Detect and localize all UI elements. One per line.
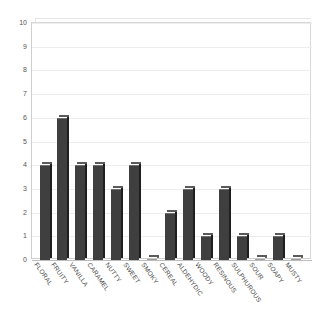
bar-side-face: [139, 163, 141, 258]
bar-body: [147, 258, 157, 260]
bar-top-face: [185, 186, 195, 188]
bar-top-face: [275, 233, 285, 235]
plot-area: [31, 22, 311, 259]
y-tick-label-1: 1: [23, 232, 27, 239]
bar-top-face: [257, 255, 267, 257]
y-tick-label-4: 4: [23, 161, 27, 168]
y-tick-label-9: 9: [23, 42, 27, 49]
bar-side-face: [50, 163, 52, 258]
bar-side-face: [121, 187, 123, 258]
x-tick-label-soapy: SOAPY: [266, 261, 285, 284]
y-tick-label-0: 0: [23, 256, 27, 263]
y-tick-label-10: 10: [19, 19, 27, 26]
bar-top-face: [221, 186, 231, 188]
y-tick-label-8: 8: [23, 66, 27, 73]
x-axis-labels: FLORALFRUITYVANILLACARAMELNUTTYSWEETSMOK…: [31, 261, 321, 322]
bar-side-face: [211, 234, 213, 258]
bar-chart: 012345678910 FLORALFRUITYVANILLACARAMELN…: [0, 0, 328, 322]
bars-layer: [32, 23, 312, 260]
bar-top-face: [239, 233, 249, 235]
y-tick-label-7: 7: [23, 90, 27, 97]
bar-top-face: [293, 255, 303, 257]
bar-top-face: [113, 186, 123, 188]
bar-body: [219, 189, 229, 260]
bar-side-face: [85, 163, 87, 258]
y-tick-label-3: 3: [23, 184, 27, 191]
bar-top-face: [131, 162, 141, 164]
x-tick-label-nutty: NUTTY: [105, 261, 124, 284]
bar-body: [75, 165, 85, 260]
bar-side-face: [67, 116, 69, 258]
bar-body: [93, 165, 103, 260]
bar-body: [165, 213, 175, 260]
bar-body: [273, 236, 283, 260]
bar-top-face: [203, 233, 213, 235]
y-tick-label-6: 6: [23, 113, 27, 120]
x-tick-label-sour: SOUR: [248, 261, 265, 281]
bar-top-face: [95, 162, 105, 164]
bar-top-face: [149, 255, 159, 257]
y-axis: 012345678910: [0, 0, 31, 322]
bar-body: [255, 258, 265, 260]
bar-top-face: [77, 162, 87, 164]
bar-top-face: [167, 210, 177, 212]
bar-body: [183, 189, 193, 260]
bar-side-face: [103, 163, 105, 258]
bar-top-face: [59, 115, 69, 117]
bar-top-face: [42, 162, 52, 164]
bar-side-face: [229, 187, 231, 258]
bar-body: [291, 258, 301, 260]
y-tick-label-5: 5: [23, 137, 27, 144]
bar-side-face: [193, 187, 195, 258]
bar-body: [40, 165, 50, 260]
bar-side-face: [247, 234, 249, 258]
bar-side-face: [175, 211, 177, 258]
bar-body: [237, 236, 247, 260]
x-tick-label-musty: MUSTY: [284, 261, 303, 284]
y-tick-label-2: 2: [23, 208, 27, 215]
bar-side-face: [283, 234, 285, 258]
bar-body: [129, 165, 139, 260]
bar-body: [111, 189, 121, 260]
bar-body: [201, 236, 211, 260]
bar-body: [57, 118, 67, 260]
plot-depth-top-edge: [35, 18, 311, 19]
